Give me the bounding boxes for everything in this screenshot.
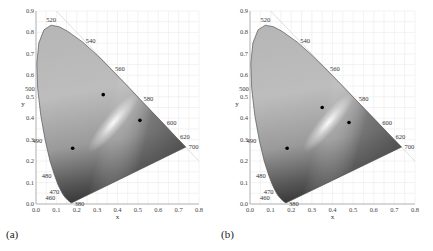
x-tick-label: 0.3	[308, 206, 316, 213]
y-tick-label: 0.8	[26, 28, 34, 35]
y-tick-label: 0.9	[240, 7, 248, 14]
y-tick-label: 0.5	[26, 93, 34, 100]
x-tick-label: 0.7	[175, 206, 184, 213]
y-tick-label: 0.4	[26, 114, 35, 121]
chromaticity-chart-b: 0.00.10.20.30.40.50.60.70.80.00.10.20.30…	[216, 0, 433, 251]
y-tick-label: 0.1	[240, 179, 248, 186]
wavelength-label: 580	[143, 95, 153, 102]
y-tick-label: 0.7	[26, 50, 35, 57]
chart-panel-b: 0.00.10.20.30.40.50.60.70.80.00.10.20.30…	[216, 0, 432, 251]
y-axis-label: y	[235, 100, 239, 108]
y-tick-label: 0.4	[240, 114, 249, 121]
wavelength-label: 600	[382, 119, 392, 126]
wavelength-label: 380	[289, 200, 299, 207]
panel-label-b: (b)	[221, 228, 234, 240]
x-tick-label: 0.5	[134, 206, 142, 213]
wavelength-label: 540	[86, 37, 96, 44]
x-tick-label: 0.5	[349, 206, 357, 213]
y-tick-label: 0.6	[240, 71, 249, 78]
x-tick-label: 0.4	[113, 206, 122, 213]
wavelength-label: 470	[50, 188, 60, 195]
wavelength-label: 560	[330, 65, 340, 72]
data-point	[101, 93, 105, 97]
wavelength-label: 490	[247, 137, 257, 144]
data-point	[138, 119, 142, 123]
data-point	[320, 106, 324, 110]
y-axis-label: y	[21, 100, 25, 108]
x-tick-label: 0.6	[370, 206, 379, 213]
y-tick-label: 0.0	[26, 200, 34, 207]
wavelength-label: 560	[115, 65, 125, 72]
wavelength-label: 460	[260, 194, 270, 201]
y-tick-label: 0.6	[26, 71, 35, 78]
x-tick-label: 0.0	[32, 206, 40, 213]
y-tick-label: 0.0	[240, 200, 248, 207]
data-point	[347, 121, 351, 125]
wavelength-label: 470	[264, 188, 274, 195]
x-tick-label: 0.2	[73, 206, 81, 213]
y-tick-label: 0.1	[26, 179, 34, 186]
x-tick-label: 0.4	[328, 206, 337, 213]
x-axis-label: x	[116, 213, 120, 221]
y-tick-label: 0.8	[240, 28, 248, 35]
x-tick-label: 0.7	[390, 206, 399, 213]
wavelength-label: 600	[167, 119, 177, 126]
x-tick-label: 0.8	[411, 206, 419, 213]
x-tick-label: 0.2	[287, 206, 295, 213]
wavelength-label: 490	[33, 137, 43, 144]
panel-label-a: (a)	[6, 228, 18, 240]
wavelength-label: 700	[189, 143, 199, 150]
x-tick-label: 0.8	[195, 206, 203, 213]
wavelength-label: 540	[300, 37, 310, 44]
y-tick-label: 0.2	[240, 157, 248, 164]
wavelength-label: 480	[256, 172, 266, 179]
wavelength-label: 620	[396, 133, 406, 140]
x-axis-label: x	[331, 213, 335, 221]
data-point	[71, 146, 75, 150]
wavelength-label: 460	[46, 194, 56, 201]
wavelength-label: 500	[25, 85, 35, 92]
wavelength-label: 580	[359, 95, 369, 102]
chromaticity-chart-a: 0.00.10.20.30.40.50.60.70.80.00.10.20.30…	[0, 0, 216, 251]
wavelength-label: 500	[239, 85, 249, 92]
wavelength-label: 480	[42, 172, 52, 179]
y-tick-label: 0.2	[26, 157, 34, 164]
x-tick-label: 0.1	[267, 206, 275, 213]
x-tick-label: 0.1	[52, 206, 60, 213]
x-tick-label: 0.6	[154, 206, 163, 213]
y-tick-label: 0.9	[26, 7, 34, 14]
x-tick-label: 0.0	[246, 206, 254, 213]
wavelength-label: 520	[46, 16, 56, 23]
y-tick-label: 0.7	[240, 50, 249, 57]
y-tick-label: 0.5	[240, 93, 248, 100]
wavelength-label: 520	[260, 16, 270, 23]
wavelength-label: 380	[74, 200, 84, 207]
data-point	[285, 146, 289, 150]
wavelength-label: 620	[180, 133, 190, 140]
x-tick-label: 0.3	[93, 206, 101, 213]
chart-panel-a: 0.00.10.20.30.40.50.60.70.80.00.10.20.30…	[0, 0, 216, 251]
wavelength-label: 700	[405, 143, 415, 150]
